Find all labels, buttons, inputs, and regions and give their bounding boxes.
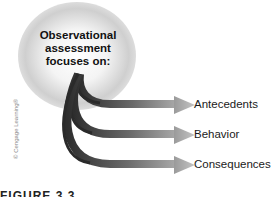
label-antecedents: Antecedents: [194, 98, 258, 110]
arrow-antecedents-icon: [77, 74, 195, 114]
figure-label: FIGURE 3.3: [0, 189, 75, 197]
label-consequences: Consequences: [194, 158, 271, 170]
label-behavior: Behavior: [194, 128, 239, 140]
copyright-credit: © Cengage Learning®: [13, 99, 19, 159]
diagram: Observational assessment focuses on:: [0, 0, 277, 197]
